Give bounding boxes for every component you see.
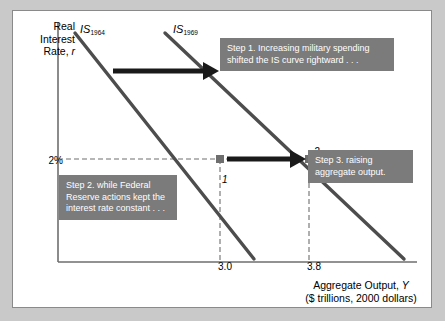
is-label-subscript-1969: 1969 xyxy=(183,29,197,36)
y-axis-title: RealInterestRate, r xyxy=(23,20,75,58)
y-axis-title-line1: Real xyxy=(53,20,75,32)
y-axis-title-line2: Interest xyxy=(40,33,75,45)
x-axis-title-line2: ($ trillions, 2000 dollars) xyxy=(305,292,416,304)
shift-arrow-upper xyxy=(113,62,219,80)
y-axis-variable-r: r xyxy=(72,45,76,57)
callout-step-2: Step 2. while Federal Reserve actions ke… xyxy=(59,175,177,220)
equilibrium-marker-1 xyxy=(216,155,224,163)
x-tick-label-38: 3.8 xyxy=(294,261,334,272)
shift-arrow-lower xyxy=(227,150,306,168)
y-tick-label-2pct: 2% xyxy=(27,155,63,166)
callout-step-3: Step 3. raising aggregate output. xyxy=(308,150,413,183)
x-axis-title: Aggregate Output, Y($ trillions, 2000 do… xyxy=(295,279,427,304)
x-axis-variable-y: Y xyxy=(402,279,409,291)
equilibrium-point-label-1: 1 xyxy=(222,174,228,185)
x-axis-title-prefix: Aggregate Output, xyxy=(313,279,402,291)
callout-step-1: Step 1. Increasing military spending shi… xyxy=(220,38,394,71)
is-label-base-1969: IS xyxy=(173,23,183,35)
is-curve-label-1964: IS1964 xyxy=(80,23,105,35)
is-curve-label-1969: IS1969 xyxy=(173,23,198,35)
y-axis-title-line3: Rate, xyxy=(43,45,71,57)
x-tick-label-30: 3.0 xyxy=(205,261,245,272)
figure-panel: RealInterestRate, r Aggregate Output, Y(… xyxy=(12,10,432,308)
is-label-base-1964: IS xyxy=(80,23,90,35)
is-label-subscript-1964: 1964 xyxy=(90,29,104,36)
